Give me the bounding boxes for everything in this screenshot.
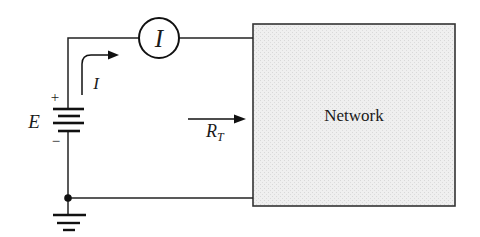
circuit-diagram: Network + − E I I RT bbox=[0, 0, 480, 237]
resistance-arrow-icon bbox=[188, 115, 246, 124]
plus-sign: + bbox=[51, 89, 59, 105]
battery-icon bbox=[53, 109, 84, 131]
ground-icon bbox=[53, 215, 86, 230]
ammeter-icon: I bbox=[139, 18, 179, 58]
current-arrow-icon bbox=[82, 51, 119, 96]
resistance-label: RT bbox=[205, 121, 225, 144]
minus-sign: − bbox=[52, 133, 60, 149]
wires bbox=[68, 38, 253, 215]
network-label: Network bbox=[324, 106, 384, 125]
junction-dot-icon bbox=[64, 194, 72, 202]
network-box: Network bbox=[253, 24, 455, 206]
source-label-e: E bbox=[27, 111, 40, 132]
current-label: I bbox=[92, 74, 100, 93]
wire-left-top bbox=[68, 38, 139, 109]
